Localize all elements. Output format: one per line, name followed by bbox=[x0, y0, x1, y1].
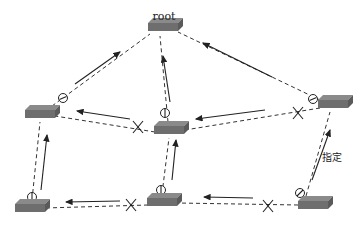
switch-center bbox=[154, 121, 189, 134]
switch-bottom-right bbox=[298, 196, 333, 209]
arrow-leftmid-root bbox=[75, 52, 120, 84]
link-bottomright-bottomcenter bbox=[178, 203, 298, 205]
switch-top bbox=[318, 95, 353, 100]
arrow-center-leftmid bbox=[77, 111, 130, 119]
root-port-icon bbox=[309, 95, 318, 104]
arrow-bottomright-bottomcenter bbox=[204, 197, 253, 198]
switch-front bbox=[154, 126, 184, 134]
arrow-bottomleft-leftmid bbox=[41, 135, 47, 190]
switch-top bbox=[298, 196, 333, 201]
switch-top bbox=[15, 199, 50, 204]
root-port-icon bbox=[161, 109, 170, 118]
arrow-rightmid-root bbox=[203, 43, 272, 77]
switch-front bbox=[147, 198, 177, 206]
switch-front bbox=[318, 100, 348, 108]
blocked-port-icon bbox=[133, 121, 143, 133]
switch-left-mid bbox=[25, 105, 60, 118]
switch-right-mid bbox=[318, 95, 353, 108]
switch-front bbox=[148, 23, 178, 31]
links bbox=[32, 32, 330, 208]
blocked-port-icon bbox=[126, 199, 136, 211]
blocked-port-icon bbox=[293, 107, 303, 119]
blocked-port-icon bbox=[263, 200, 273, 212]
switch-front bbox=[298, 201, 328, 209]
root-label: root bbox=[153, 10, 177, 23]
switch-bottom-left bbox=[15, 199, 50, 212]
switch-top bbox=[147, 193, 182, 198]
designated-label: 指定 bbox=[322, 151, 342, 163]
arrow-rightmid-center bbox=[196, 110, 265, 119]
root-port-icon bbox=[59, 94, 68, 103]
switch-front bbox=[15, 204, 45, 212]
arrow-bottomcenter-bottomleft bbox=[66, 201, 120, 202]
arrow-bottomcenter-center bbox=[172, 140, 176, 180]
switches bbox=[15, 18, 353, 212]
switch-bottom-center bbox=[147, 193, 182, 206]
switch-top bbox=[25, 105, 60, 110]
switch-front bbox=[25, 110, 55, 118]
switch-top bbox=[154, 121, 189, 126]
stp-diagram: root 指定 bbox=[0, 0, 360, 234]
link-bottomleft-leftmid bbox=[32, 122, 40, 200]
